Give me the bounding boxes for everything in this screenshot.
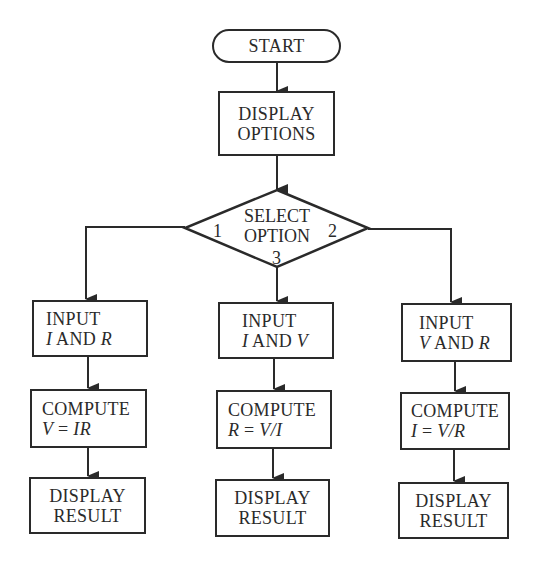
input-i-and-r-box: INPUT I AND R <box>32 300 148 357</box>
formula-lhs: R <box>228 420 239 440</box>
compute-label: COMPUTE <box>228 400 316 420</box>
input-vars: V AND R <box>419 333 490 353</box>
compute-label: COMPUTE <box>411 401 499 421</box>
display-label: DISPLAY <box>234 488 310 508</box>
var-b: V <box>297 331 308 351</box>
input-v-and-r-box: INPUT V AND R <box>401 303 512 362</box>
decision-line1: SELECT <box>227 206 327 226</box>
branch-label-3: 3 <box>272 249 281 267</box>
input-i-and-v-box: INPUT I AND V <box>218 302 334 359</box>
formula-eq: = <box>417 421 437 441</box>
formula-eq: = <box>239 420 259 440</box>
input-vars: I AND R <box>46 329 112 349</box>
branch-label-1: 1 <box>213 222 222 240</box>
conj: AND <box>248 331 297 351</box>
compute-v-box: COMPUTE V = IR <box>30 389 147 448</box>
display-options-line2: OPTIONS <box>237 124 315 144</box>
formula-rhs: V/R <box>437 421 465 441</box>
input-label: INPUT <box>419 313 474 333</box>
result-label: RESULT <box>419 511 487 531</box>
flowchart: START DISPLAY OPTIONS SELECT OPTION 1 2 … <box>0 0 539 566</box>
formula-eq: = <box>53 419 73 439</box>
input-label: INPUT <box>46 309 101 329</box>
formula: R = V/I <box>228 420 282 440</box>
formula-rhs: V/I <box>259 420 282 440</box>
input-vars: I AND V <box>242 331 308 351</box>
display-options-box: DISPLAY OPTIONS <box>218 91 335 156</box>
compute-i-box: COMPUTE I = V/R <box>400 392 510 450</box>
display-options-line1: DISPLAY <box>238 104 314 124</box>
branch-label-2: 2 <box>328 222 337 240</box>
display-label: DISPLAY <box>415 491 491 511</box>
result-label: RESULT <box>53 506 121 526</box>
formula: I = V/R <box>411 421 465 441</box>
decision-label: SELECT OPTION <box>227 206 327 246</box>
formula: V = IR <box>42 419 91 439</box>
arrow-branch-1 <box>86 227 185 299</box>
decision-line2: OPTION <box>227 226 327 246</box>
input-label: INPUT <box>242 311 297 331</box>
var-b: R <box>479 333 490 353</box>
start-label: START <box>249 36 305 56</box>
arrow-branch-2 <box>368 229 451 302</box>
formula-rhs: IR <box>73 419 91 439</box>
display-result-box-2: DISPLAY RESULT <box>398 482 509 539</box>
start-terminal: START <box>212 29 341 63</box>
display-label: DISPLAY <box>49 486 125 506</box>
result-label: RESULT <box>238 508 306 528</box>
var-a: V <box>419 333 430 353</box>
conj: AND <box>430 333 479 353</box>
var-b: R <box>101 329 112 349</box>
display-result-box-3: DISPLAY RESULT <box>215 479 330 537</box>
conj: AND <box>52 329 101 349</box>
compute-r-box: COMPUTE R = V/I <box>216 390 332 449</box>
display-result-box-1: DISPLAY RESULT <box>29 477 146 534</box>
compute-label: COMPUTE <box>42 399 130 419</box>
formula-lhs: V <box>42 419 53 439</box>
